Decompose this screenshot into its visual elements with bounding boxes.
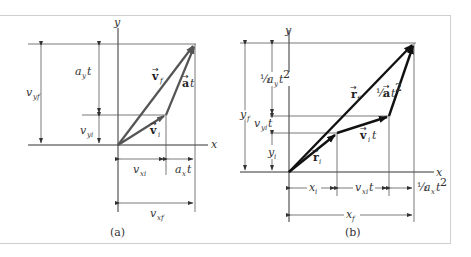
- svg-text:a: a: [424, 181, 431, 194]
- label-r-f: rf →: [350, 83, 361, 103]
- svg-text:t: t: [190, 77, 195, 90]
- svg-text:v: v: [26, 86, 33, 99]
- svg-text:v: v: [133, 163, 140, 176]
- svg-text:a: a: [175, 163, 182, 176]
- panel-a: y x vf → at → vi → vyf ayt: [26, 16, 218, 239]
- svg-text:xf: xf: [157, 214, 165, 222]
- svg-text:v: v: [254, 117, 261, 130]
- svg-text:→: →: [312, 146, 319, 155]
- caption-b: (b): [345, 226, 361, 239]
- svg-text:t: t: [372, 129, 377, 142]
- svg-text:i: i: [319, 158, 321, 166]
- svg-text:x: x: [431, 188, 435, 196]
- label-half-ayt2: ½ ayt2: [259, 68, 291, 88]
- label-half-at2: ½ at2 →: [376, 81, 402, 100]
- label-xf: xf: [344, 208, 360, 223]
- svg-text:f: f: [246, 115, 251, 123]
- svg-text:yf: yf: [32, 93, 41, 101]
- y-axis-label: y: [113, 16, 121, 29]
- svg-text:→: →: [182, 72, 189, 81]
- label-vyit: vyit: [253, 117, 277, 132]
- svg-text:x: x: [182, 170, 186, 178]
- label-vyi: vyi: [80, 124, 93, 139]
- label-ayt: ayt: [75, 65, 92, 80]
- y-axis-label: y: [284, 24, 292, 37]
- label-v-f: vf →: [151, 65, 164, 85]
- label-v-i: vi →: [149, 119, 160, 139]
- svg-text:v: v: [150, 207, 157, 220]
- svg-text:→: →: [150, 119, 157, 128]
- svg-text:i: i: [315, 188, 317, 196]
- svg-text:2: 2: [440, 176, 447, 189]
- label-vxi: vxi: [133, 163, 146, 178]
- svg-text:xi: xi: [140, 170, 146, 178]
- label-xi: xi: [307, 181, 321, 196]
- panel-b: y x rf → ½ at2 → vit → ri →: [239, 24, 447, 239]
- svg-text:t: t: [87, 65, 92, 78]
- label-yf: y yf: [239, 108, 251, 123]
- svg-text:→: →: [383, 82, 390, 91]
- svg-text:2: 2: [283, 68, 290, 81]
- svg-text:t: t: [268, 117, 273, 130]
- svg-text:a: a: [75, 65, 82, 78]
- label-vyf: vyf: [26, 86, 41, 101]
- svg-text:→: →: [152, 65, 159, 74]
- svg-text:i: i: [158, 131, 160, 139]
- svg-text:v: v: [80, 124, 87, 137]
- svg-text:yi: yi: [260, 124, 267, 132]
- svg-text:yi: yi: [86, 131, 93, 139]
- svg-text:→: →: [360, 124, 367, 133]
- svg-text:i: i: [274, 153, 276, 161]
- label-vi-t: vit →: [359, 124, 377, 144]
- vector-r-final: [289, 45, 412, 172]
- label-a-t: at →: [182, 72, 195, 90]
- svg-text:a: a: [267, 73, 274, 86]
- svg-text:y: y: [239, 108, 247, 121]
- svg-text:t: t: [187, 163, 192, 176]
- svg-text:v: v: [355, 181, 362, 194]
- label-r-i: ri →: [312, 146, 321, 166]
- label-vxf: vxf: [150, 207, 165, 222]
- x-axis-label: x: [211, 138, 218, 151]
- label-half-axt2: ½ axt2: [417, 176, 447, 196]
- label-axt: axt: [175, 163, 192, 178]
- label-vxit: vxit: [353, 181, 375, 196]
- label-yi: yi: [266, 145, 280, 161]
- svg-text:t: t: [369, 181, 374, 194]
- kinematics-diagram: y x vf → at → vi → vyf ayt: [0, 0, 471, 257]
- svg-text:2: 2: [395, 81, 402, 94]
- caption-a: (a): [110, 226, 125, 239]
- svg-text:→: →: [350, 83, 357, 92]
- svg-text:xi: xi: [362, 188, 368, 196]
- svg-text:i: i: [368, 136, 370, 144]
